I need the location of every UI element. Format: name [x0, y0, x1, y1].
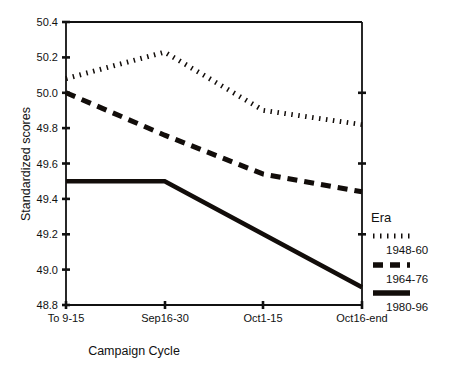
y-tick-label: 49.4	[37, 193, 58, 205]
y-tick-label: 50.2	[37, 51, 58, 63]
y-tick-label: 49.2	[37, 228, 58, 240]
y-tick-label: 49.6	[37, 158, 58, 170]
y-tick-label: 50.0	[37, 87, 58, 99]
legend: Era 1948-60 1964-76 1980-96	[371, 210, 428, 313]
series-line-1980-96	[66, 181, 362, 287]
y-tick-label: 49.0	[37, 264, 58, 276]
line-chart: 50.4 50.2 50.0 49.8 49.6 49.4 49.2 49.0 …	[0, 0, 452, 375]
legend-title: Era	[371, 210, 392, 225]
series-line-1964-76	[66, 93, 362, 192]
x-axis-title: Campaign Cycle	[88, 344, 180, 358]
x-tick-label: Oct16-end	[336, 312, 387, 324]
y-tick-label: 48.8	[37, 299, 58, 311]
legend-label-1980-96: 1980-96	[386, 301, 428, 313]
legend-label-1964-76: 1964-76	[386, 273, 428, 285]
y-tick-label: 49.8	[37, 122, 58, 134]
x-tick-label: To 9-15	[48, 312, 85, 324]
chart-figure: 50.4 50.2 50.0 49.8 49.6 49.4 49.2 49.0 …	[0, 0, 452, 375]
x-tick-label: Sep16-30	[141, 312, 189, 324]
y-tick-label: 50.4	[37, 16, 58, 28]
series-line-1948-60	[66, 52, 362, 125]
y-tick-labels: 50.4 50.2 50.0 49.8 49.6 49.4 49.2 49.0 …	[37, 16, 58, 311]
y-axis-title: Standardized scores	[19, 107, 33, 221]
x-tick-label: Oct1-15	[243, 312, 282, 324]
x-tick-labels: To 9-15 Sep16-30 Oct1-15 Oct16-end	[48, 312, 388, 324]
legend-label-1948-60: 1948-60	[386, 244, 428, 256]
